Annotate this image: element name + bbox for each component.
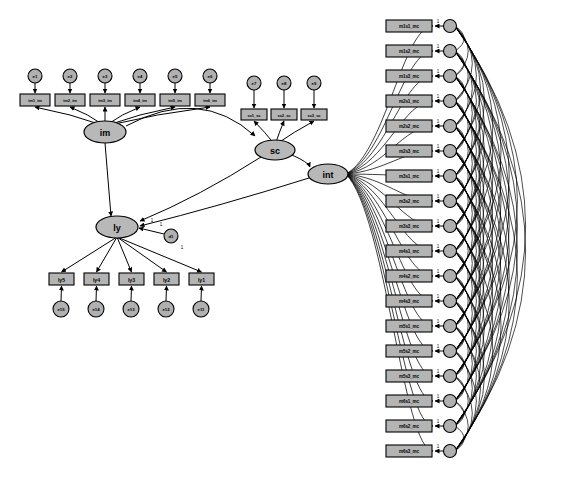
- interaction-indicator-m5s1: m5s1_mc: [386, 320, 432, 332]
- sc-indicator-sc3: sc3_sc: [301, 109, 327, 120]
- observed-variable-box: [386, 345, 432, 357]
- observed-variable-box: [386, 445, 432, 457]
- im-indicator-im3: im3_im: [90, 94, 120, 106]
- im-error-e6: e6: [203, 69, 217, 83]
- path-coefficient-label: 1: [437, 319, 440, 324]
- observed-variable-box: [386, 170, 432, 182]
- structural-path-im-to-ly: [105, 143, 111, 216]
- error-term-circle: [444, 45, 457, 58]
- observed-variable-box: [386, 220, 432, 232]
- observed-variable-box: [160, 94, 190, 106]
- path-coefficient-label: 1: [437, 419, 440, 424]
- ly-indicator-ly3: ly3: [119, 273, 144, 285]
- observed-variable-box: [386, 420, 432, 432]
- path-coefficient-label: 1: [437, 444, 440, 449]
- path-coefficient-label: 1: [437, 219, 440, 224]
- path-coefficient-label: 1: [181, 245, 184, 250]
- error-term-circle: [133, 69, 147, 83]
- interaction-indicator-m3s3: m3s3_mc: [386, 220, 432, 232]
- interaction-residual-r9: [444, 220, 457, 233]
- interaction-residual-r14: [444, 345, 457, 358]
- disturbance-d1: d1: [164, 229, 178, 243]
- error-term-circle: [444, 195, 457, 208]
- interaction-residual-r11: [444, 270, 457, 283]
- path-coefficient-label: 1: [437, 94, 440, 99]
- error-term-circle: [444, 220, 457, 233]
- ly-indicator-ly2: ly2: [154, 273, 179, 285]
- interaction-residual-r3: [444, 70, 457, 83]
- observed-variable-box: [154, 273, 179, 285]
- im-indicator-im2: im2_im: [55, 94, 85, 106]
- path-coefficient-label: 1: [437, 69, 440, 74]
- interaction-loadings-group: [346, 26, 433, 451]
- error-term-circle: [203, 69, 217, 83]
- residual-covariance-arc: [455, 251, 464, 276]
- error-term-circle: [88, 301, 104, 317]
- interaction-indicator-m5s2: m5s2_mc: [386, 345, 432, 357]
- residual-covariance-arc: [455, 151, 464, 176]
- observed-variable-box: [125, 94, 155, 106]
- error-to-indicator-arrow: [131, 286, 132, 301]
- latent-variable-ellipse: [308, 164, 348, 184]
- error-term-circle: [444, 20, 457, 33]
- error-term-circle: [444, 170, 457, 183]
- interaction-residual-r2: [444, 45, 457, 58]
- latent-to-indicator-arrow: [97, 237, 118, 272]
- im-indicator-im5: im5_im: [160, 94, 190, 106]
- path-coefficient-label: 1: [437, 369, 440, 374]
- int-to-indicator-arrow: [346, 174, 433, 401]
- observed-variable-box: [386, 370, 432, 382]
- error-term-circle: [28, 69, 42, 83]
- interaction-residual-r12: [444, 295, 457, 308]
- error-term-circle: [444, 345, 457, 358]
- nodes-group: im1_imim2_imim3_imim4_imim5_imim6_ime1e2…: [20, 20, 457, 458]
- observed-variable-box: [386, 145, 432, 157]
- im-indicator-im6: im6_im: [195, 94, 225, 106]
- residual-covariance-arc: [455, 351, 464, 376]
- latent-variable-im: im: [84, 121, 126, 143]
- observed-variable-box: [195, 94, 225, 106]
- path-coefficient-label: 1: [437, 19, 440, 24]
- residual-covariance-arc: [455, 26, 464, 51]
- sem-diagram-canvas: im1_imim2_imim3_imim4_imim5_imim6_ime1e2…: [0, 0, 567, 481]
- ly-indicator-ly4: ly4: [84, 273, 109, 285]
- error-term-circle: [53, 301, 69, 317]
- residual-covariance-arc: [455, 101, 464, 126]
- im-error-e4: e4: [133, 69, 147, 83]
- error-term-circle: [444, 95, 457, 108]
- observed-variable-box: [90, 94, 120, 106]
- observed-variable-box: [386, 270, 432, 282]
- ly-indicator-ly5: ly5: [49, 273, 74, 285]
- interaction-indicator-m1s2: m1s2_mc: [386, 45, 432, 57]
- im-indicator-im4: im4_im: [125, 94, 155, 106]
- interaction-indicator-m4s1: m4s1_mc: [386, 245, 432, 257]
- observed-variable-box: [49, 273, 74, 285]
- interaction-indicator-m4s3: m4s3_mc: [386, 295, 432, 307]
- residual-covariance-arc: [455, 426, 464, 451]
- interaction-residual-r15: [444, 370, 457, 383]
- observed-variable-box: [301, 109, 327, 120]
- observed-variable-box: [386, 120, 432, 132]
- observed-variable-box: [241, 109, 267, 120]
- error-term-circle: [444, 70, 457, 83]
- latent-variable-ellipse: [255, 140, 295, 160]
- sc-indicator-sc1: sc1_sc: [241, 109, 267, 120]
- error-term-circle: [63, 69, 77, 83]
- ly-error-e15: e15: [53, 301, 69, 317]
- interaction-indicator-m4s2: m4s2_mc: [386, 270, 432, 282]
- residual-covariance-arc: [455, 176, 464, 201]
- path-coefficient-label: 1: [437, 194, 440, 199]
- interaction-residual-r7: [444, 170, 457, 183]
- observed-variable-box: [386, 195, 432, 207]
- path-coefficient-label: 1: [437, 169, 440, 174]
- error-term-circle: [247, 76, 261, 90]
- structural-path-int-to-ly: [140, 178, 309, 226]
- interaction-indicator-m3s2: m3s2_mc: [386, 195, 432, 207]
- error-term-circle: [444, 120, 457, 133]
- residual-covariance-arc: [455, 226, 464, 251]
- error-term-circle: [444, 420, 457, 433]
- interaction-residual-r10: [444, 245, 457, 258]
- path-coefficient-label: 1: [437, 44, 440, 49]
- observed-variable-box: [84, 273, 109, 285]
- im-error-e5: e5: [168, 69, 182, 83]
